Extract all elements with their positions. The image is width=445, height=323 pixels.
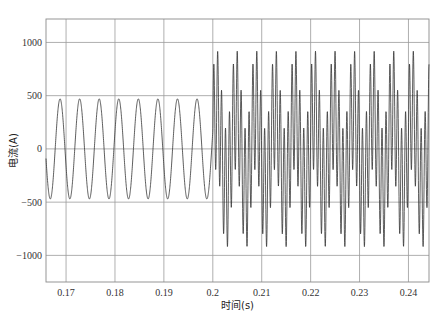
y-tick-label: 500 — [27, 90, 42, 101]
x-tick-label: 0.24 — [400, 287, 418, 298]
y-tick-label: −1000 — [16, 250, 42, 261]
x-axis-label: 时间(s) — [221, 299, 254, 311]
x-tick-label: 0.21 — [253, 287, 271, 298]
x-tick-label: 0.18 — [106, 287, 124, 298]
x-tick-label: 0.23 — [351, 287, 369, 298]
x-tick-label: 0.2 — [207, 287, 220, 298]
y-tick-label: −500 — [21, 197, 42, 208]
x-tick-labels: 0.170.180.190.20.210.220.230.24 — [57, 287, 417, 298]
y-tick-labels: 10005000−500−1000 — [16, 37, 42, 261]
y-tick-label: 1000 — [22, 37, 42, 48]
current-time-chart: 0.170.180.190.20.210.220.230.24 10005000… — [0, 0, 445, 323]
x-tick-label: 0.22 — [302, 287, 320, 298]
x-tick-label: 0.19 — [155, 287, 173, 298]
y-tick-label: 0 — [37, 143, 42, 154]
x-tick-label: 0.17 — [57, 287, 75, 298]
y-axis-label: 电流(A) — [7, 133, 19, 168]
